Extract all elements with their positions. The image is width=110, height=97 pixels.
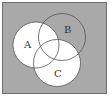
set-a-label: A [23,39,32,50]
set-c-label: C [54,68,62,79]
venn-diagram: A B C [0,0,110,97]
set-b-label: B [64,24,71,35]
